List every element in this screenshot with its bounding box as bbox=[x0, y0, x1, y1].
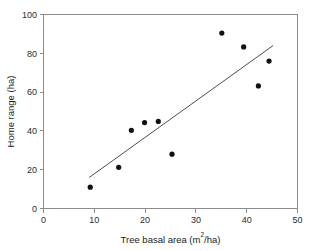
x-axis-title: Tree basal area (m2/ha) bbox=[121, 231, 221, 246]
scatter-plot-figure: 02040608010001020304050Tree basal area (… bbox=[0, 0, 314, 251]
data-point bbox=[116, 165, 121, 170]
data-point bbox=[256, 83, 261, 88]
y-tick-label: 80 bbox=[27, 49, 37, 59]
data-point bbox=[129, 128, 134, 133]
y-tick-label: 0 bbox=[32, 204, 37, 214]
x-tick-label: 10 bbox=[89, 215, 99, 225]
data-point bbox=[266, 58, 271, 63]
y-tick-label: 60 bbox=[27, 87, 37, 97]
data-point bbox=[241, 44, 246, 49]
data-point bbox=[142, 120, 147, 125]
y-tick-label: 100 bbox=[22, 10, 37, 20]
data-point bbox=[219, 31, 224, 36]
x-tick-label: 50 bbox=[292, 215, 302, 225]
x-tick-label: 0 bbox=[41, 215, 46, 225]
regression-line bbox=[89, 46, 273, 178]
data-point bbox=[88, 185, 93, 190]
chart-canvas: 02040608010001020304050Tree basal area (… bbox=[0, 0, 314, 251]
x-tick-label: 20 bbox=[140, 215, 150, 225]
y-tick-label: 20 bbox=[27, 165, 37, 175]
data-point bbox=[156, 119, 161, 124]
data-point bbox=[169, 152, 174, 157]
x-tick-label: 40 bbox=[242, 215, 252, 225]
x-tick-label: 30 bbox=[191, 215, 201, 225]
y-axis-title: Home range (ha) bbox=[5, 76, 16, 148]
y-tick-label: 40 bbox=[27, 126, 37, 136]
